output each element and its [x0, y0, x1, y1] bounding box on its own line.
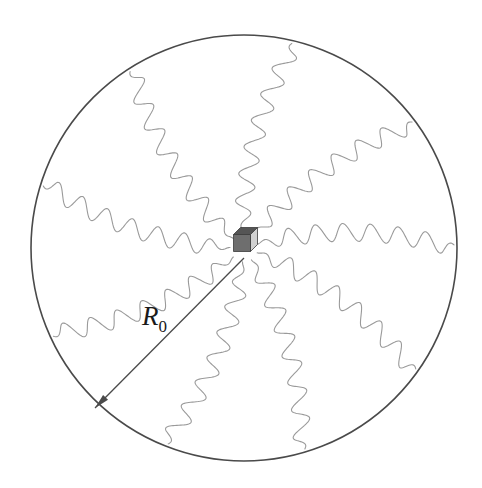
radius-label-subscript: 0	[159, 317, 168, 336]
cube-front-face	[234, 235, 251, 252]
radiation-figure: R0	[0, 0, 482, 488]
central-source-cube-group	[234, 228, 258, 252]
radius-label-letter: R	[141, 301, 159, 331]
figure-canvas: R0	[0, 0, 482, 488]
